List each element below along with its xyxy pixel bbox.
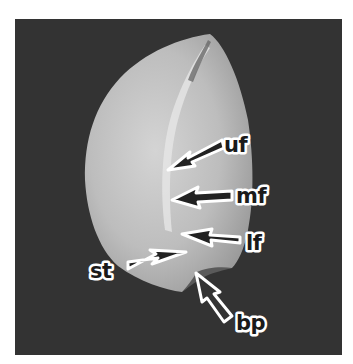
label-mf: mf [236, 184, 267, 208]
label-uf: uf [224, 133, 248, 157]
label-st: st [90, 259, 112, 283]
seed-figure: uf mf lf st bp [0, 0, 353, 364]
label-bp: bp [236, 311, 266, 335]
label-lf: lf [246, 231, 263, 255]
